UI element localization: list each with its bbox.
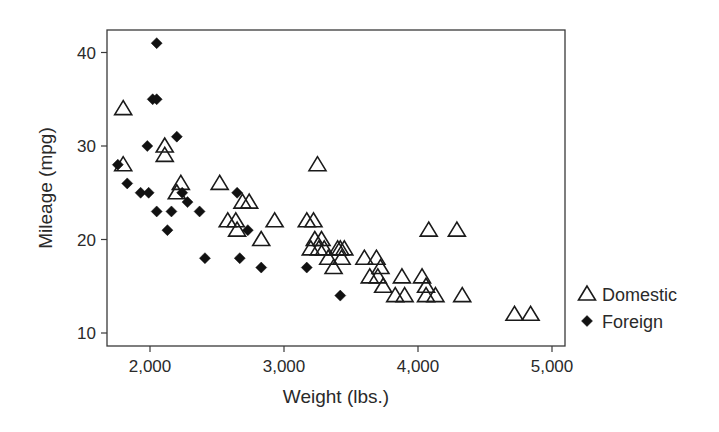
y-tick-label: 30 — [77, 137, 96, 156]
legend-label: Foreign — [602, 312, 663, 332]
x-tick-label: 2,000 — [129, 357, 172, 376]
y-tick-label: 10 — [77, 324, 96, 343]
legend-item-foreign: Foreign — [582, 312, 664, 332]
legend-item-domestic: Domestic — [579, 285, 678, 305]
x-axis-title: Weight (lbs.) — [283, 386, 389, 407]
x-tick-label: 3,000 — [263, 357, 306, 376]
y-tick-label: 40 — [77, 44, 96, 63]
x-tick-label: 5,000 — [531, 357, 574, 376]
y-axis: 10203040 — [77, 44, 107, 344]
x-tick-label: 4,000 — [397, 357, 440, 376]
legend-label: Domestic — [602, 285, 677, 305]
triangle-legend-icon — [579, 286, 596, 300]
y-axis-title: Mileage (mpg) — [35, 127, 56, 248]
y-tick-label: 20 — [77, 231, 96, 250]
scatter-chart: 2,0003,0004,0005,000 10203040 Weight (lb… — [0, 0, 719, 432]
x-axis: 2,0003,0004,0005,000 — [129, 346, 574, 376]
diamond-legend-icon — [582, 316, 593, 327]
legend: DomesticForeign — [579, 285, 678, 332]
